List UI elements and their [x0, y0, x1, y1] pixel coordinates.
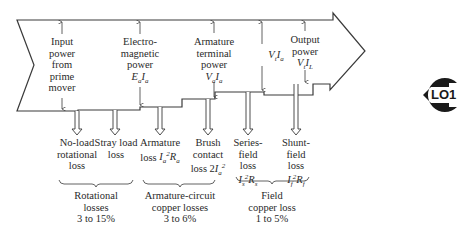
loss-arrow-no-load [72, 111, 82, 135]
formula-ia2: Ia2 [215, 163, 226, 174]
group-braces [59, 177, 309, 187]
loss-arrow-armature [155, 107, 165, 135]
brace-rotational [59, 180, 133, 187]
label-stray-load-loss: Stray load loss [93, 137, 139, 160]
group-field-copper-loss: Field copper loss 1 to 5% [242, 190, 302, 225]
loss-arrow-brush [203, 99, 213, 135]
formula-ia2-ra: Ia2Ra [159, 151, 179, 162]
formula-va-ia: VaIa [190, 71, 238, 88]
group-rotational-losses: Rotational losses 3 to 15% [66, 190, 126, 225]
formula-vt-ia: VtIa [265, 49, 287, 66]
loss-arrow-shunt [291, 84, 301, 135]
label-armature-loss: Armature loss Ia2Ra [138, 137, 182, 168]
label-electromagnetic-power: Electro- magnetic power EaIa [115, 36, 165, 87]
formula-vt-il: VtIL [285, 57, 325, 74]
label-armature-terminal-power: Armature terminal power VaIa [190, 36, 238, 87]
label-vt-ia: VtIa [265, 49, 287, 66]
formula-ea-ia: EaIa [115, 71, 165, 88]
loss-arrow-series [243, 92, 253, 135]
brace-armature-circuit [143, 180, 215, 187]
formula-is2-rs: Is2Rs [232, 172, 264, 191]
learning-objective-badge: LO1 [419, 75, 463, 115]
label-series-field-loss: Series- field loss Is2Rs [232, 137, 264, 191]
group-armature-circuit-copper-losses: Armature-circuit copper losses 3 to 6% [140, 190, 220, 225]
label-brush-contact-loss: Brush contact loss 2Ia2 [186, 137, 230, 179]
label-shunt-field-loss: Shunt- field loss If2Rf [280, 137, 312, 191]
loss-arrow-stray [110, 110, 120, 135]
label-input-power: Input power from prime mover [44, 36, 80, 94]
lo-badge-label: LO1 [431, 87, 456, 103]
formula-if2-rf: If2Rf [280, 172, 312, 191]
label-output-power: Output power VtIL [285, 34, 325, 74]
